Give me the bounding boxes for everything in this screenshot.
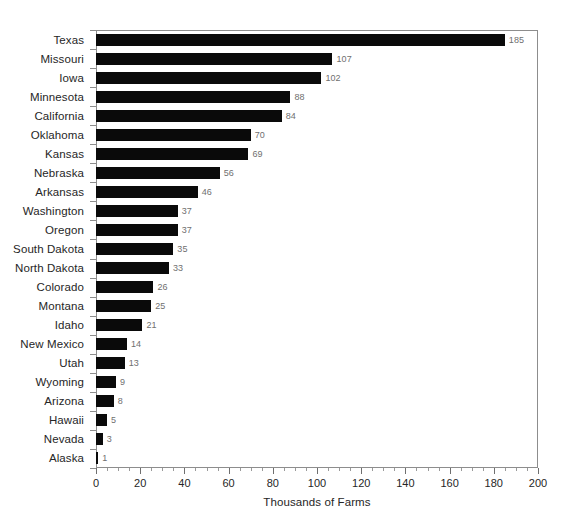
x-axis-tick-label: 200 (529, 477, 547, 489)
x-axis-minor-tick (505, 468, 506, 471)
bar-row: 1 (96, 449, 538, 468)
x-axis-tick-label: 100 (308, 477, 326, 489)
x-axis-minor-tick (394, 468, 395, 471)
bar-value-label: 56 (224, 168, 234, 178)
x-axis-minor-tick (306, 468, 307, 471)
y-axis-label-oregon: Oregon (45, 224, 84, 236)
y-axis-label-new-mexico: New Mexico (20, 338, 84, 350)
y-axis-category-labels: TexasMissouriIowaMinnesotaCaliforniaOkla… (0, 30, 96, 468)
x-axis-minor-tick (207, 468, 208, 471)
bar-row: 185 (96, 30, 538, 49)
x-axis-minor-tick (483, 468, 484, 471)
x-axis-minor-tick (129, 468, 130, 471)
y-axis-label-arkansas: Arkansas (35, 186, 84, 198)
x-axis-minor-tick (339, 468, 340, 471)
x-axis-major-tick (96, 468, 97, 474)
bar-value-label: 26 (157, 282, 167, 292)
x-axis: Thousands of Farms 020406080100120140160… (96, 468, 538, 524)
bar (96, 338, 127, 350)
bar-row: 25 (96, 297, 538, 316)
bar-row: 35 (96, 239, 538, 258)
y-axis-label-north-dakota: North Dakota (15, 262, 84, 274)
x-axis-minor-tick (428, 468, 429, 471)
bar-value-label: 33 (173, 263, 183, 273)
bar (96, 34, 505, 46)
y-axis-label-colorado: Colorado (37, 281, 84, 293)
x-axis-minor-tick (151, 468, 152, 471)
x-axis-major-tick (538, 468, 539, 474)
x-axis-minor-tick (295, 468, 296, 471)
x-axis-major-tick (405, 468, 406, 474)
bar-value-label: 14 (131, 339, 141, 349)
bar-row: 37 (96, 220, 538, 239)
x-axis-minor-tick (195, 468, 196, 471)
x-axis-minor-tick (262, 468, 263, 471)
x-axis-minor-tick (416, 468, 417, 471)
y-axis-label-montana: Montana (39, 300, 84, 312)
bar (96, 110, 282, 122)
x-axis-minor-tick (162, 468, 163, 471)
y-axis-label-south-dakota: South Dakota (13, 243, 84, 255)
bar (96, 300, 151, 312)
x-axis-tick-label: 40 (178, 477, 190, 489)
bar-value-label: 70 (255, 130, 265, 140)
x-axis-minor-tick (350, 468, 351, 471)
bar (96, 205, 178, 217)
x-axis-tick-label: 60 (222, 477, 234, 489)
bar (96, 167, 220, 179)
bar-series: 1851071028884706956463737353326252114139… (96, 30, 538, 468)
x-axis-minor-tick (218, 468, 219, 471)
x-axis-tick-label: 180 (485, 477, 503, 489)
x-axis-tick-label: 120 (352, 477, 370, 489)
bar (96, 72, 321, 84)
x-axis-minor-tick (383, 468, 384, 471)
bar-value-label: 8 (118, 396, 123, 406)
bar-row: 69 (96, 144, 538, 163)
bar-row: 26 (96, 278, 538, 297)
bar-row: 3 (96, 430, 538, 449)
bar (96, 376, 116, 388)
bar-row: 21 (96, 316, 538, 335)
bar (96, 91, 290, 103)
bar (96, 53, 332, 65)
bar (96, 433, 103, 445)
bar-value-label: 84 (286, 111, 296, 121)
bar-value-label: 88 (294, 92, 304, 102)
y-axis-label-nevada: Nevada (44, 433, 84, 445)
bar-value-label: 102 (325, 73, 340, 83)
bar-value-label: 5 (111, 415, 116, 425)
bar-chart: TexasMissouriIowaMinnesotaCaliforniaOkla… (0, 0, 574, 524)
x-axis-title: Thousands of Farms (96, 496, 538, 508)
x-axis-minor-tick (516, 468, 517, 471)
bar (96, 452, 98, 464)
x-axis-minor-tick (251, 468, 252, 471)
bar-row: 102 (96, 68, 538, 87)
bar (96, 224, 178, 236)
bar-row: 33 (96, 259, 538, 278)
bar-value-label: 13 (129, 358, 139, 368)
x-axis-minor-tick (439, 468, 440, 471)
bar-value-label: 69 (252, 149, 262, 159)
bar (96, 243, 173, 255)
bar-value-label: 107 (336, 54, 351, 64)
y-axis-label-wyoming: Wyoming (35, 376, 84, 388)
x-axis-minor-tick (328, 468, 329, 471)
bar (96, 395, 114, 407)
x-axis-minor-tick (284, 468, 285, 471)
y-axis-label-texas: Texas (53, 34, 84, 46)
y-axis-label-nebraska: Nebraska (34, 167, 84, 179)
y-axis-label-oklahoma: Oklahoma (31, 129, 84, 141)
bar-row: 56 (96, 163, 538, 182)
bar-row: 5 (96, 411, 538, 430)
x-axis-minor-tick (173, 468, 174, 471)
x-axis-major-tick (229, 468, 230, 474)
bar-value-label: 3 (107, 434, 112, 444)
bar (96, 186, 198, 198)
bar-row: 88 (96, 87, 538, 106)
x-axis-major-tick (273, 468, 274, 474)
bar-value-label: 185 (509, 35, 524, 45)
x-axis-major-tick (184, 468, 185, 474)
bar-value-label: 37 (182, 206, 192, 216)
y-axis-label-arizona: Arizona (44, 395, 84, 407)
bar (96, 319, 142, 331)
